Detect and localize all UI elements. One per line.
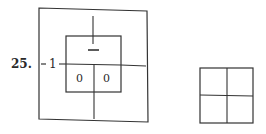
diagram-canvas: 25. 1 0 0 <box>0 0 266 134</box>
outer-label: 1 <box>49 57 57 71</box>
left-cell-value: 0 <box>76 72 83 85</box>
inner-horizontal-divider <box>66 64 121 65</box>
small-grid-horizontal <box>200 95 253 96</box>
problem-number: 25. <box>11 57 32 71</box>
right-connector <box>121 65 146 66</box>
right-cell-value: 0 <box>103 72 110 85</box>
